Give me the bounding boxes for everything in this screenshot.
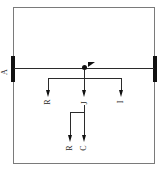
level2-crossbar xyxy=(70,112,85,113)
branch-label-r2: R xyxy=(66,142,74,154)
level2-stem xyxy=(84,105,85,112)
level2-arrow-left xyxy=(68,135,72,142)
right-end-bar xyxy=(153,56,157,82)
branch-label-c: C xyxy=(80,142,88,154)
branch-label-j: J xyxy=(81,97,89,109)
level2-drop-right xyxy=(84,112,85,137)
level1-arrow-center xyxy=(82,90,86,97)
level2-arrow-right xyxy=(82,135,86,142)
branch-label-r1: R xyxy=(44,96,52,108)
diagram-canvas: A R J I R C xyxy=(0,0,168,172)
left-bar-label: A xyxy=(1,67,9,77)
level1-stem xyxy=(84,70,85,78)
level2-drop-left xyxy=(70,112,71,137)
branch-label-i: I xyxy=(117,96,125,108)
left-end-bar xyxy=(11,56,15,82)
node-inbound-arrowhead xyxy=(88,62,95,67)
